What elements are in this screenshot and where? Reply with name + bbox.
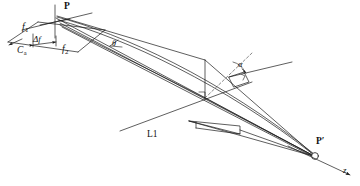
label-alpha: α — [238, 60, 242, 69]
ray-envelope-top — [57, 16, 314, 155]
label-z-axis: z — [343, 166, 347, 175]
right-angle-mark-alpha — [241, 74, 245, 80]
z-axis-line — [288, 146, 350, 175]
label-f2: f2 — [62, 44, 68, 56]
label-delta-f: Δf — [33, 35, 41, 44]
optics-diagram-svg — [0, 0, 360, 186]
label-l1: L1 — [147, 130, 158, 140]
label-ca: Ca — [17, 46, 27, 56]
alpha-normal-dashed — [205, 53, 252, 98]
ray-lower-long — [62, 27, 314, 157]
optics-figure: P f1 Δf Ca f2 θ α L1 P′ z — [0, 0, 360, 186]
alpha-facet-quad — [229, 72, 249, 87]
label-point-p: P — [64, 2, 70, 12]
label-theta: θ — [112, 40, 116, 48]
label-f1: f1 — [22, 22, 28, 34]
label-point-pprime: P′ — [316, 137, 324, 147]
